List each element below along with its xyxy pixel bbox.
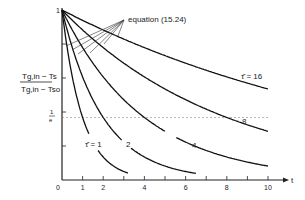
chart-svg: Tg,in − Ts Tg,in − Tso t 1 1 e 0 1 2 4 6 <box>0 0 305 200</box>
curve-tau-1 <box>62 10 89 134</box>
curve-tau-1 <box>98 151 128 174</box>
curve-label-4: 4 <box>192 141 197 150</box>
y-tick-e-num: 1 <box>50 109 54 115</box>
x-tick-4: 4 <box>142 184 146 191</box>
y-axis-label: Tg,in − Ts Tg,in − Tso <box>20 72 61 94</box>
curve-label-1: τ̂ = 1 <box>85 140 102 149</box>
curve-label-2: 2 <box>126 140 131 149</box>
x-tick-10: 10 <box>264 184 272 191</box>
y-tick-e-den: e <box>49 117 53 123</box>
curve-label-16: τ̂ = 16 <box>241 72 263 81</box>
curve-label-8: 8 <box>242 117 247 126</box>
x-tick-0: 0 <box>56 184 60 191</box>
x-tick-1: 1 <box>81 184 85 191</box>
y-label-numerator: Tg,in − Ts <box>22 72 57 81</box>
x-axis-label: t <box>291 176 294 185</box>
x-axis-arrow-icon <box>283 178 289 183</box>
curve-tau-4 <box>62 10 165 131</box>
curve-tau-2 <box>62 10 122 140</box>
y-tick-1: 1 <box>56 7 60 14</box>
x-tick-8: 8 <box>225 184 229 191</box>
curve-tau-2 <box>131 148 196 173</box>
x-tick-labels: 0 1 2 4 6 8 10 <box>56 184 272 191</box>
x-tick-2: 2 <box>101 184 105 191</box>
x-tick-6: 6 <box>184 184 188 191</box>
y-label-denominator: Tg,in − Tso <box>21 85 61 94</box>
curve-tau-8 <box>62 10 268 131</box>
curve-tau-4 <box>176 138 268 166</box>
chart: Tg,in − Ts Tg,in − Tso t 1 1 e 0 1 2 4 6 <box>0 0 305 200</box>
annotation-label: equation (15.24) <box>128 15 187 24</box>
annotation-arrows <box>66 20 124 54</box>
